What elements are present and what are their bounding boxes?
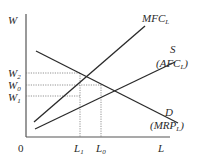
l0-label: L0 bbox=[95, 142, 106, 156]
monopsony-labor-market-diagram: W L 0 W2 W0 W1 L1 L0 MFCL S (AFCL) D (MR… bbox=[0, 0, 202, 160]
mrp-label: (MRPL) bbox=[150, 119, 184, 133]
demand-label: D bbox=[164, 106, 173, 118]
l1-label: L1 bbox=[73, 142, 84, 156]
afc-label: (AFCL) bbox=[156, 57, 188, 71]
y-axis-label: W bbox=[8, 14, 18, 26]
w1-label: W1 bbox=[8, 91, 21, 105]
mfc-label: MFCL bbox=[141, 12, 169, 26]
x-axis-label: L bbox=[157, 142, 164, 154]
supply-label: S bbox=[170, 43, 176, 55]
mfc-curve bbox=[34, 26, 145, 122]
origin-label: 0 bbox=[18, 142, 24, 154]
